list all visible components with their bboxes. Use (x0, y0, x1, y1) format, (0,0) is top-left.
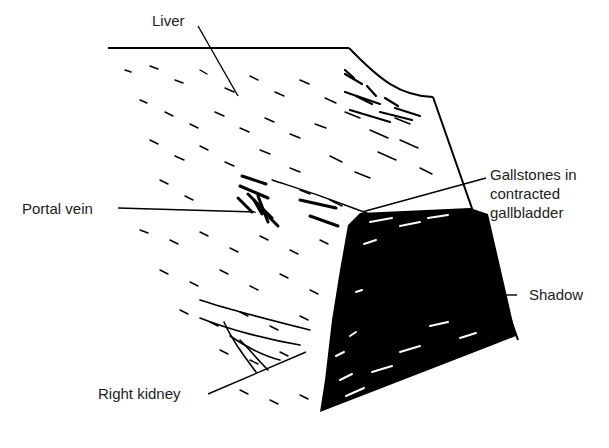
label-gallstones-line2: contracted (490, 184, 577, 203)
label-gallstones: Gallstones in contracted gallbladder (490, 165, 577, 222)
label-gallstones-line3: gallbladder (490, 203, 577, 222)
label-liver: Liver (152, 11, 185, 30)
label-right-kidney: Right kidney (98, 384, 181, 403)
label-portal-vein: Portal vein (22, 199, 93, 218)
label-gallstones-line1: Gallstones in (490, 165, 577, 184)
liver-leader (198, 26, 238, 96)
portal-vein-echo (238, 176, 338, 226)
scan-drawing (0, 0, 609, 448)
acoustic-shadow (320, 208, 516, 412)
ultrasound-diagram: Liver Portal vein Gallstones in contract… (0, 0, 609, 448)
label-shadow: Shadow (529, 285, 583, 304)
portal-vein-leader (118, 208, 256, 212)
kidney-echo (200, 300, 310, 372)
